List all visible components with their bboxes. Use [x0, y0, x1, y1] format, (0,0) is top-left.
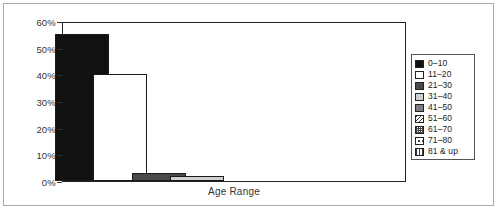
legend-item: 41–50 — [415, 102, 471, 113]
legend-label: 71–80 — [428, 136, 452, 145]
y-tick-mark — [57, 49, 62, 50]
legend-swatch-white-icon — [415, 71, 424, 79]
legend-swatch-medium-gray-icon — [415, 104, 424, 112]
y-tick-mark — [57, 182, 62, 183]
y-tick-mark — [57, 22, 62, 23]
bars-layer — [63, 23, 405, 181]
legend-item: 71–80 — [415, 135, 471, 146]
legend-swatch-dark-gray-icon — [415, 82, 424, 90]
y-tick-mark — [57, 75, 62, 76]
y-tick-label: 20% — [36, 123, 56, 134]
legend-label: 81 & up — [428, 147, 458, 156]
legend-swatch-light-gray-icon — [415, 93, 424, 101]
legend-label: 61–70 — [428, 125, 452, 134]
legend-label: 41–50 — [428, 103, 452, 112]
legend-swatch-solid-black-icon — [415, 60, 424, 68]
legend-item: 21–30 — [415, 80, 471, 91]
bar-chart-figure: 0%10%20%30%40%50%60% Age Range 0–1011–20… — [0, 0, 503, 218]
bar — [170, 176, 224, 181]
legend-swatch-checker-icon — [415, 126, 424, 134]
y-tick-label: 10% — [36, 150, 56, 161]
legend-item: 61–70 — [415, 124, 471, 135]
legend-item: 81 & up — [415, 146, 471, 157]
legend-item: 51–60 — [415, 113, 471, 124]
legend-label: 31–40 — [428, 92, 452, 101]
legend-swatch-vertical-stripes-icon — [415, 148, 424, 156]
legend-item: 0–10 — [415, 58, 471, 69]
legend-item: 31–40 — [415, 91, 471, 102]
y-tick-mark — [57, 129, 62, 130]
legend-label: 0–10 — [428, 59, 447, 68]
legend-item: 11–20 — [415, 69, 471, 80]
y-tick-label: 40% — [36, 70, 56, 81]
y-tick-label: 50% — [36, 43, 56, 54]
x-axis-title: Age Range — [62, 186, 406, 197]
legend-swatch-sparse-dots-icon — [415, 137, 424, 145]
legend-swatch-diagonal-hatch-icon — [415, 115, 424, 123]
legend-label: 21–30 — [428, 81, 452, 90]
legend-label: 11–20 — [428, 70, 452, 79]
y-tick-label: 60% — [36, 17, 56, 28]
y-tick-mark — [57, 155, 62, 156]
bar — [93, 74, 147, 181]
legend-label: 51–60 — [428, 114, 452, 123]
plot-area — [62, 22, 406, 182]
y-tick-label: 30% — [36, 97, 56, 108]
legend: 0–1011–2021–3031–4041–5051–6061–7071–808… — [411, 54, 475, 160]
y-tick-mark — [57, 102, 62, 103]
y-axis: 0%10%20%30%40%50%60% — [20, 22, 56, 182]
y-tick-label: 0% — [42, 177, 56, 188]
